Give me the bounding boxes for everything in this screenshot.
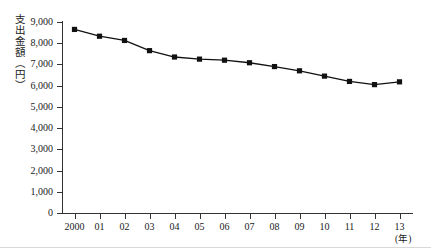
x-axis-tick [225,214,226,219]
y-axis-tick [57,192,62,193]
y-axis-tick-label: 9,000 [7,17,53,27]
x-axis-tick [350,214,351,219]
y-axis-tick [57,149,62,150]
page-divider [0,247,431,248]
y-axis-tick-label: 0 [7,208,53,218]
y-axis-tick-label: 2,000 [7,166,53,176]
x-axis-tick [400,214,401,219]
y-axis-tick [57,171,62,172]
line-chart: 支出金額（円） 01,0002,0003,0004,0005,0006,0007… [0,0,431,252]
x-axis-tick [175,214,176,219]
x-axis-tick [75,214,76,219]
y-axis-tick [57,43,62,44]
y-axis-tick-label: 4,000 [7,123,53,133]
y-axis-tick [57,86,62,87]
x-axis-tick-label: 13 [380,221,420,232]
y-axis-tick-label: 8,000 [7,38,53,48]
x-axis-tick [375,214,376,219]
x-axis-tick [250,214,251,219]
x-axis-tick [100,214,101,219]
x-axis-tick [125,214,126,219]
y-axis-tick [57,22,62,23]
y-axis-tick-label: 6,000 [7,81,53,91]
x-axis-tick [325,214,326,219]
x-axis-tick [200,214,201,219]
y-axis-tick [57,213,62,214]
y-axis-tick-label: 1,000 [7,187,53,197]
y-axis-tick-label: 5,000 [7,102,53,112]
y-axis-tick-label: 7,000 [7,59,53,69]
x-axis-unit-label: (年) [395,234,411,244]
x-axis-tick [150,214,151,219]
y-axis-tick [57,64,62,65]
x-axis-line [62,213,413,214]
y-axis-tick-label: 3,000 [7,144,53,154]
plot-area [62,22,412,213]
y-axis-tick [57,107,62,108]
x-axis-tick [275,214,276,219]
x-axis-tick [300,214,301,219]
y-axis-tick [57,128,62,129]
